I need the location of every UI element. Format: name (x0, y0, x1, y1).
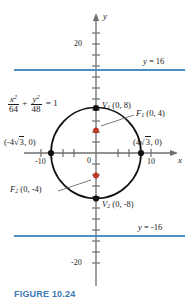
vertex-bottom-coords: (0, -8) (112, 199, 133, 209)
equation-x-exponent: 2 (14, 94, 17, 100)
covertex-right-point (138, 150, 144, 156)
covertex-left-radicand: 3 (19, 136, 24, 147)
vertex-top-subscript: 1 (107, 104, 110, 110)
vertex-bottom-label: V2 (0, -8) (102, 200, 134, 210)
x-axis-arrowhead (170, 150, 178, 156)
sqrt-icon-left: √3 (14, 138, 24, 147)
x-axis-label: x (178, 156, 182, 165)
covertex-right-label: (4√3, 0) (133, 138, 162, 147)
focus-top-leader-line (101, 115, 134, 126)
ellipse-equation-label: x2 64 + y2 48 = 1 (8, 94, 58, 114)
vertex-top-label: V1 (0, 8) (102, 101, 131, 111)
focus-bottom-label: F2 (0, -4) (10, 185, 42, 195)
sqrt-icon-right: √3 (140, 138, 150, 147)
focus-top-subscript: 1 (141, 112, 144, 118)
x-tick-label-10: 10 (147, 158, 155, 166)
directrix-upper-label: y = 16 (143, 57, 164, 66)
focus-top-coords: (0, 4) (146, 108, 164, 118)
equation-plus-sign: + (21, 98, 28, 108)
directrix-upper-value: = 16 (149, 56, 164, 66)
vertex-bottom-subscript: 2 (107, 203, 110, 209)
covertex-right-prefix: (4 (133, 137, 140, 147)
y-axis-arrowhead (93, 13, 99, 21)
y-tick-label-20: 20 (74, 40, 82, 48)
x-tick-label-minus-10: -10 (35, 158, 46, 166)
figure-caption: FIGURE 10.24 (14, 289, 75, 297)
focus-top-point (93, 128, 99, 134)
equation-y-term: y2 48 (31, 94, 42, 114)
directrix-lower-var: y (138, 222, 142, 232)
y-axis-label: y (103, 12, 107, 21)
focus-top-label: F1 (0, 4) (136, 109, 165, 119)
ellipse-figure: y x 0 20 -20 -10 10 x2 64 + y2 48 = 1 V1… (0, 0, 191, 297)
focus-bottom-coords: (0, -4) (20, 184, 41, 194)
focus-bottom-leader-line (58, 180, 91, 191)
covertex-left-prefix: (-4 (4, 137, 14, 147)
covertex-left-label: (-4√3, 0) (4, 138, 36, 147)
focus-bottom-subscript: 2 (15, 188, 18, 194)
equation-y-denominator: 48 (31, 105, 42, 114)
y-tick-label-minus-20: -20 (71, 259, 82, 267)
equation-y-exponent: 2 (37, 94, 40, 100)
covertex-right-suffix: , 0) (151, 137, 162, 147)
covertex-right-radicand: 3 (145, 136, 150, 147)
vertex-top-coords: (0, 8) (112, 100, 130, 110)
focus-bottom-point (93, 173, 99, 179)
vertex-bottom-point (93, 195, 99, 201)
covertex-left-point (48, 150, 54, 156)
origin-label: 0 (87, 157, 91, 165)
equation-equals-one: = 1 (44, 98, 58, 108)
directrix-lower-value: = -16 (144, 222, 162, 232)
directrix-upper-var: y (143, 56, 147, 66)
equation-x-denominator: 64 (8, 105, 19, 114)
vertex-top-point (93, 105, 99, 111)
plot-canvas (0, 0, 191, 297)
equation-x-term: x2 64 (8, 94, 19, 114)
directrix-lower-label: y = -16 (138, 223, 162, 232)
covertex-left-suffix: , 0) (24, 137, 35, 147)
